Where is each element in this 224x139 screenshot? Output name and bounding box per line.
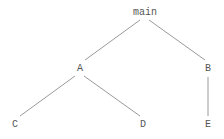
tree-diagram: main A B C D E xyxy=(0,0,224,139)
node-b: B xyxy=(205,63,211,74)
node-a: A xyxy=(77,63,83,74)
node-e: E xyxy=(205,119,211,130)
edge-main-a xyxy=(85,20,140,60)
edges xyxy=(20,20,208,116)
edge-a-d xyxy=(84,76,140,116)
edge-main-b xyxy=(149,20,205,60)
node-main: main xyxy=(133,7,157,18)
node-c: C xyxy=(12,119,18,130)
nodes: main A B C D E xyxy=(12,7,211,130)
edge-a-c xyxy=(20,76,75,116)
node-d: D xyxy=(140,119,146,130)
